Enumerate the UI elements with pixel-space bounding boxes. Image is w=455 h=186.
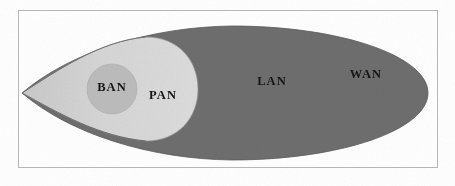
region-label-lan: LAN xyxy=(257,74,287,88)
network-scope-diagram: BAN PAN LAN WAN xyxy=(0,0,455,186)
region-label-ban: BAN xyxy=(97,80,127,94)
region-label-pan: PAN xyxy=(149,88,177,102)
figure-root: BAN PAN LAN WAN xyxy=(0,0,455,186)
region-label-wan: WAN xyxy=(350,67,382,81)
